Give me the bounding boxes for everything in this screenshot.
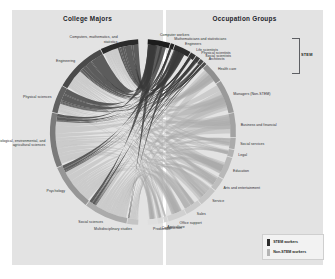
major-label-1[interactable]: Engineering xyxy=(56,59,75,63)
occupation-label-7[interactable]: Health care xyxy=(218,67,236,71)
occupation-label-2[interactable]: Engineers xyxy=(185,42,201,46)
major-label-4[interactable]: Psychology xyxy=(47,189,65,193)
major-label-3[interactable]: Biological, environmental, and agricultu… xyxy=(0,139,45,148)
stem-bracket-label: STEM xyxy=(301,52,313,57)
chord-arc-occupation-18[interactable] xyxy=(157,217,163,223)
occupation-label-9[interactable]: Business and financial xyxy=(241,123,277,127)
occupation-label-13[interactable]: Arts and entertainment xyxy=(223,186,260,190)
occupation-label-6[interactable]: Architects xyxy=(209,57,225,61)
legend-item-nonstem: Non-STEM workers xyxy=(267,249,306,257)
ribbon-layer xyxy=(55,45,230,220)
legend-swatch-stem xyxy=(267,239,270,247)
chord-diagram-figure: College Majors Occupation Groups Compute… xyxy=(0,0,335,279)
legend: STEM workers Non-STEM workers xyxy=(262,234,324,260)
occupation-label-11[interactable]: Legal xyxy=(238,153,247,157)
major-label-6[interactable]: Multidisciplinary studies xyxy=(94,227,132,231)
legend-label-stem: STEM workers xyxy=(273,240,298,244)
major-label-5[interactable]: Social sciences xyxy=(78,220,103,224)
chord-arc-occupation-17[interactable] xyxy=(163,216,168,222)
chord-arc-occupation-19[interactable] xyxy=(148,218,158,224)
major-label-0[interactable]: Computers, mathematics, and statistics xyxy=(56,35,118,44)
legend-swatch-nonstem xyxy=(267,249,270,257)
occupation-label-19[interactable]: Production xyxy=(153,227,170,231)
chord-arc-occupation-1[interactable] xyxy=(169,43,174,49)
occupation-label-12[interactable]: Education xyxy=(233,169,249,173)
major-label-2[interactable]: Physical sciences xyxy=(23,95,51,99)
stem-bracket xyxy=(292,38,300,74)
legend-item-stem: STEM workers xyxy=(267,239,298,247)
occupation-label-14[interactable]: Service xyxy=(212,199,224,203)
legend-label-nonstem: Non-STEM workers xyxy=(273,250,306,254)
occupation-label-10[interactable]: Social services xyxy=(240,142,264,146)
occupation-label-15[interactable]: Sales xyxy=(197,212,206,216)
occupation-label-8[interactable]: Managers (Non-STEM) xyxy=(233,92,270,96)
